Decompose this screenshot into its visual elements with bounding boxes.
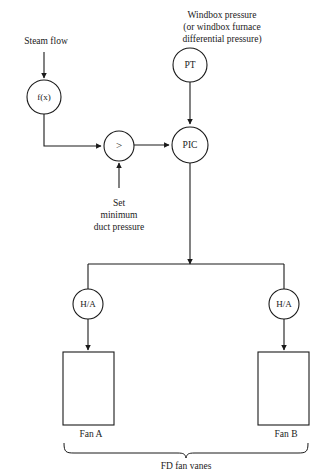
fan-a-label: Fan A (80, 429, 103, 441)
fan-b-label: Fan B (275, 429, 298, 441)
fd-fan-vanes-label: FD fan vanes (161, 461, 212, 473)
fd-fan-vanes-brace (64, 443, 308, 458)
fan-a-block (63, 352, 114, 425)
pressure-transmitter-node (173, 48, 207, 82)
windbox-pressure-label-line1: Windbox pressure (187, 10, 256, 22)
windbox-pressure-label-line2: (or windbox furnace (183, 22, 261, 34)
diagram-canvas: f(x) > PT PIC H/A H/A Steam flow Windbox… (0, 0, 323, 476)
control-diagram-graphics (0, 0, 323, 476)
pressure-controller-node (172, 127, 208, 163)
fx-to-comparator-link (44, 114, 101, 146)
function-generator-node (27, 80, 61, 114)
set-minimum-label-line2: minimum (101, 210, 138, 222)
hand-auto-a-node (73, 289, 103, 319)
fan-b-block (258, 352, 309, 425)
set-minimum-label-line1: Set (113, 198, 125, 210)
comparator-node (104, 131, 134, 161)
hand-auto-b-node (269, 289, 299, 319)
steam-flow-label: Steam flow (24, 36, 68, 48)
set-minimum-label-line3: duct pressure (94, 222, 144, 234)
windbox-pressure-label-line3: differential pressure) (182, 34, 261, 46)
